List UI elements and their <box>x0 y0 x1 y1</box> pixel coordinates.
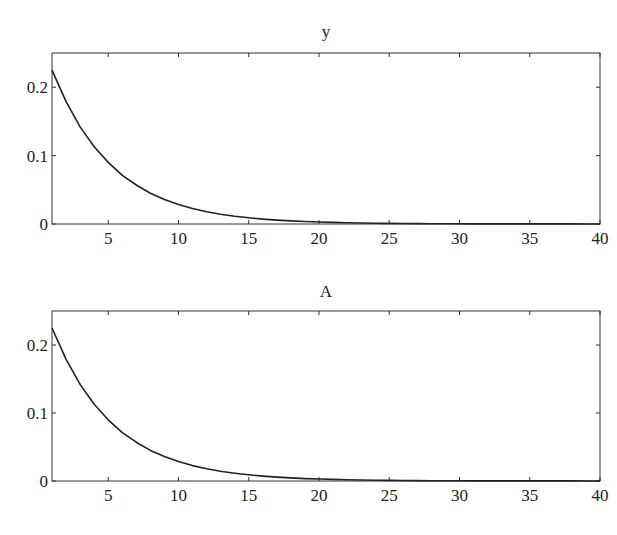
subplot-y: y 51015202530354000.10.2 <box>27 22 609 248</box>
y-tick-label: 0 <box>40 472 49 491</box>
x-tick-label: 25 <box>381 229 398 248</box>
x-tick-label: 20 <box>310 486 327 505</box>
x-tick-label: 5 <box>104 486 113 505</box>
axes-frame <box>52 53 600 224</box>
x-tick-label: 40 <box>592 229 609 248</box>
y-tick-label: 0.1 <box>27 147 48 166</box>
x-tick-label: 10 <box>170 229 187 248</box>
x-tick-label: 30 <box>451 229 468 248</box>
subplot-title-a: A <box>320 282 333 301</box>
series-line-A <box>52 328 600 481</box>
x-tick-label: 10 <box>170 486 187 505</box>
axes-frame <box>52 311 600 481</box>
x-tick-label: 20 <box>310 229 327 248</box>
x-tick-label: 30 <box>451 486 468 505</box>
y-tick-label: 0 <box>40 215 49 234</box>
series-line-y <box>52 70 600 224</box>
x-tick-label: 35 <box>521 229 538 248</box>
x-tick-label: 35 <box>521 486 538 505</box>
x-tick-label: 40 <box>592 486 609 505</box>
subplot-a: A 51015202530354000.10.2 <box>27 282 609 505</box>
y-tick-label: 0.2 <box>27 78 48 97</box>
figure: y 51015202530354000.10.2 A 5101520253035… <box>0 0 617 535</box>
y-tick-label: 0.1 <box>27 404 48 423</box>
axes-y: 51015202530354000.10.2 <box>27 53 609 248</box>
subplot-title-y: y <box>322 22 331 41</box>
x-tick-label: 25 <box>381 486 398 505</box>
x-tick-label: 15 <box>240 229 257 248</box>
x-tick-label: 15 <box>240 486 257 505</box>
y-tick-label: 0.2 <box>27 336 48 355</box>
axes-a: 51015202530354000.10.2 <box>27 311 609 505</box>
x-tick-label: 5 <box>104 229 113 248</box>
